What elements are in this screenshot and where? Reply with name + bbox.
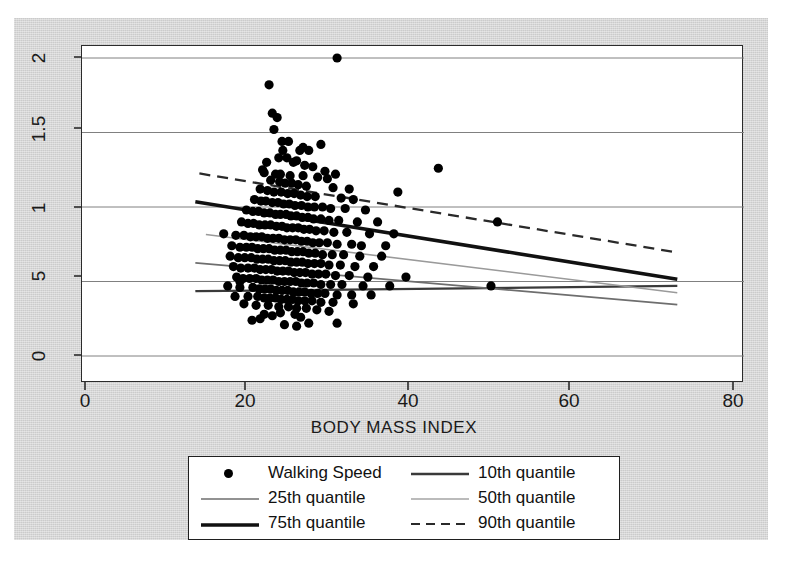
legend-key-line-medium-icon: [409, 465, 471, 481]
legend-label-25th-quantile: 25th quantile: [268, 488, 365, 508]
legend-item-25th-quantile: 25th quantile: [193, 488, 403, 508]
legend-key-line-thick-icon: [199, 515, 261, 531]
legend-label-90th-quantile: 90th quantile: [478, 513, 575, 533]
legend-key-line-dashed-icon: [409, 515, 471, 531]
legend-item-75th-quantile: 75th quantile: [193, 513, 403, 533]
legend-label-75th-quantile: 75th quantile: [268, 513, 365, 533]
legend-item-walking-speed: Walking Speed: [193, 463, 403, 483]
legend-key-line-thin-icon: [199, 490, 261, 506]
legend-key-line-light-icon: [409, 490, 471, 506]
legend-item-50th-quantile: 50th quantile: [403, 488, 613, 508]
legend-item-10th-quantile: 10th quantile: [403, 463, 613, 483]
legend-label-10th-quantile: 10th quantile: [478, 463, 575, 483]
legend: Walking Speed 10th quantile 25th quantil…: [188, 456, 620, 540]
legend-key-dot-icon: [199, 465, 261, 481]
legend-label-walking-speed: Walking Speed: [268, 463, 382, 483]
legend-label-50th-quantile: 50th quantile: [478, 488, 575, 508]
legend-grid: Walking Speed 10th quantile 25th quantil…: [189, 457, 619, 539]
figure-container: 2 1.5 1 5 0 0 20 40 60 80 BODY MASS INDE…: [0, 0, 788, 573]
legend-item-90th-quantile: 90th quantile: [403, 513, 613, 533]
